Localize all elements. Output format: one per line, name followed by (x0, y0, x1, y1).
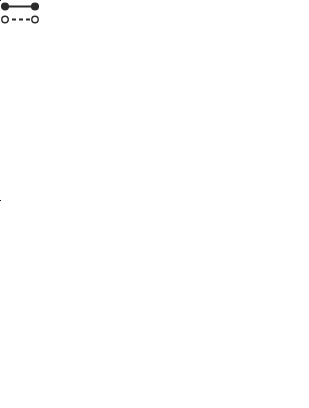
chart-panel-systolic-blood-pressure (0, 0, 309, 200)
series-lines-heart-rate (1, 200, 301, 350)
chart-legend (0, 0, 45, 26)
series-lines-systolic (1, 0, 301, 150)
legend-key-low-reactors-icon (0, 13, 40, 26)
legend-key-high-reactors-icon (0, 0, 40, 13)
chart-panel-heart-rate (0, 200, 309, 408)
legend-entry-high-reactors (0, 0, 45, 13)
legend-entry-low-reactors (0, 13, 45, 26)
plot-area-heart-rate (0, 200, 1, 201)
